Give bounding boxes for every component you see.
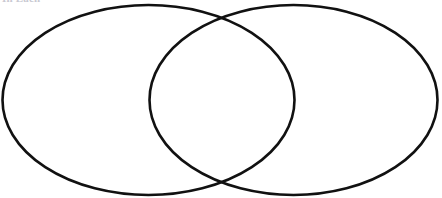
- venn-diagram-canvas: In Each: [0, 0, 442, 198]
- venn-diagram-svg: [0, 0, 442, 198]
